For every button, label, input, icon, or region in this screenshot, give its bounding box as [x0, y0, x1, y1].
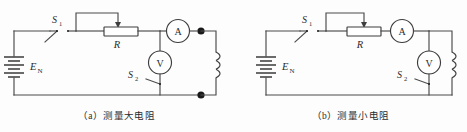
circuit-panel-a: E N S 1 R [0, 0, 233, 132]
voltmeter-label-a: V [156, 58, 164, 69]
ammeter-label-a: A [174, 26, 182, 37]
circuit-diagram-a: E N S 1 R [0, 0, 233, 110]
voltmeter-label-b: V [425, 58, 433, 69]
coil-under-test-b [452, 52, 456, 78]
wire-terminal-top-right-a [201, 31, 216, 52]
switch-s2-label-sub-a: 2 [135, 75, 138, 82]
switch-s1-a[interactable] [45, 30, 76, 42]
battery-symbol-b [256, 57, 276, 77]
switch-s2-b[interactable] [415, 79, 430, 95]
switch-s1-label-sub-b: 1 [309, 20, 312, 27]
battery-symbol-a [4, 57, 24, 77]
figure-container: E N S 1 R [0, 0, 467, 132]
switch-s2-label-b: S [397, 69, 402, 80]
circuit-panel-b: E N S 1 R A [234, 0, 467, 132]
rheostat-label-b: R [356, 39, 364, 50]
caption-b: （b）测量小电阻 [234, 108, 467, 122]
battery-label-a: E [29, 61, 37, 72]
switch-s2-label-sub-b: 2 [404, 75, 407, 82]
rheostat-label-a: R [113, 39, 121, 50]
wire-node-to-coil-top-b [429, 31, 452, 52]
circuit-diagram-b: E N S 1 R A [234, 0, 467, 110]
switch-s1-label-b: S [302, 14, 307, 25]
battery-label-b: E [281, 61, 289, 72]
battery-label-sub-a: N [38, 67, 43, 75]
switch-s2-label-a: S [128, 69, 133, 80]
switch-s1-label-a: S [52, 14, 57, 25]
switch-s1-b[interactable] [295, 30, 326, 42]
switch-s2-a[interactable] [146, 79, 161, 95]
rheostat-body-a[interactable] [104, 27, 138, 36]
caption-a: （a）测量大电阻 [0, 108, 233, 122]
coil-under-test-a [216, 52, 220, 78]
battery-label-sub-b: N [290, 67, 295, 75]
switch-s1-label-sub-a: 1 [59, 20, 62, 27]
ammeter-label-b: A [398, 26, 406, 37]
rheostat-body-b[interactable] [347, 27, 381, 36]
